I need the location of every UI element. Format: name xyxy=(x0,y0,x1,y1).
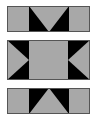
top-panel xyxy=(7,6,90,32)
bottom-panel xyxy=(7,88,90,114)
geometric-figure xyxy=(0,0,97,121)
top-panel-graphic xyxy=(7,6,90,32)
middle-panel-graphic xyxy=(7,40,90,80)
bottom-panel-graphic xyxy=(7,88,90,114)
middle-panel xyxy=(7,40,90,80)
